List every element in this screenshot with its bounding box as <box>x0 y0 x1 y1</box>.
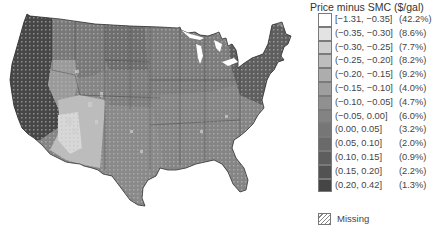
legend-percent: (1.3%) <box>399 180 426 190</box>
legend-item: (−0.05, 0.00](6.0%) <box>318 110 434 124</box>
legend-item: (0.15, 0.20](2.2%) <box>318 165 434 179</box>
legend-title: Price minus SMC ($/gal) <box>310 1 424 13</box>
legend-item: [−1.31, −0.35](42.2%) <box>318 13 434 27</box>
legend-range: (−0.25, −0.20] <box>335 55 393 65</box>
legend-swatch <box>318 110 332 124</box>
legend-item: (−0.20, −0.15](9.2%) <box>318 68 434 82</box>
legend-range: (0.10, 0.15] <box>335 152 382 162</box>
legend-swatch <box>318 151 332 165</box>
legend-range: (−0.30, −0.25] <box>335 42 393 52</box>
legend-swatch <box>318 123 332 137</box>
legend-item: (−0.25, −0.20](8.2%) <box>318 54 434 68</box>
legend-swatch <box>318 82 332 96</box>
legend-percent: (4.7%) <box>399 97 426 107</box>
legend-percent: (8.2%) <box>399 55 426 65</box>
legend-swatch <box>318 54 332 68</box>
legend-percent: (2.0%) <box>399 138 426 148</box>
hatch-swatch <box>318 213 331 225</box>
legend-swatch <box>318 41 332 55</box>
legend-swatch <box>318 96 332 110</box>
legend-item: (−0.30, −0.25](7.7%) <box>318 41 434 55</box>
legend-item: (−0.15, −0.10](4.0%) <box>318 82 434 96</box>
legend-range: (−0.10, −0.05] <box>335 97 393 107</box>
legend-percent: (9.2%) <box>399 69 426 79</box>
legend-range: [−1.31, −0.35] <box>335 14 392 24</box>
legend-swatch <box>318 13 332 27</box>
legend-percent: (2.2%) <box>399 166 426 176</box>
legend-range: (−0.15, −0.10] <box>335 83 393 93</box>
legend-swatch <box>318 179 332 193</box>
legend: Price minus SMC ($/gal) [−1.31, −0.35](4… <box>300 0 434 252</box>
choropleth-map <box>0 0 310 252</box>
legend-swatch <box>318 68 332 82</box>
legend-percent: (3.2%) <box>399 124 426 134</box>
legend-percent: (0.9%) <box>399 152 426 162</box>
legend-item: (0.10, 0.15](0.9%) <box>318 151 434 165</box>
legend-item: (−0.10, −0.05](4.7%) <box>318 96 434 110</box>
legend-item: (−0.35, −0.30](8.6%) <box>318 27 434 41</box>
legend-range: (−0.20, −0.15] <box>335 69 393 79</box>
legend-range: (0.15, 0.20] <box>335 166 382 176</box>
legend-percent: (4.0%) <box>399 83 426 93</box>
legend-swatch <box>318 137 332 151</box>
legend-range: (0.05, 0.10] <box>335 138 382 148</box>
missing-label: Missing <box>337 213 369 224</box>
legend-item: (0.00, 0.05](3.2%) <box>318 123 434 137</box>
legend-range: (0.00, 0.05] <box>335 124 382 134</box>
legend-percent: (8.6%) <box>399 28 426 38</box>
legend-swatch <box>318 165 332 179</box>
legend-swatch <box>318 27 332 41</box>
legend-range: (−0.05, 0.00] <box>335 111 387 121</box>
legend-percent: (6.0%) <box>399 111 426 121</box>
legend-item: (0.05, 0.10](2.0%) <box>318 137 434 151</box>
legend-percent: (7.7%) <box>399 42 426 52</box>
legend-range: (0.20, 0.42] <box>335 180 382 190</box>
legend-range: (−0.35, −0.30] <box>335 28 393 38</box>
legend-item: (0.20, 0.42](1.3%) <box>318 179 434 193</box>
legend-percent: (42.2%) <box>399 14 432 24</box>
